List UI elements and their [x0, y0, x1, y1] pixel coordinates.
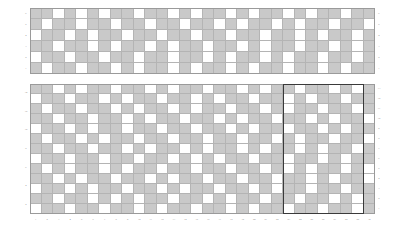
top-panel-grid-area — [30, 8, 375, 74]
grid-cell — [88, 63, 100, 74]
grid-cell — [99, 94, 111, 104]
axis-tick-label: 13 — [378, 88, 381, 91]
grid-cell — [111, 154, 123, 164]
axis-tick-label: 28 — [345, 219, 348, 222]
axis-tick-label: 11 — [378, 108, 381, 111]
grid-cell — [295, 52, 307, 63]
grid-cell — [53, 63, 65, 74]
grid-cell — [214, 194, 226, 204]
grid-cell — [214, 114, 226, 124]
grid-cell — [88, 134, 100, 144]
grid-cell — [226, 52, 238, 63]
grid-cell — [272, 174, 284, 184]
axis-tick-label: 7 — [378, 148, 379, 151]
axis-tick-label: 15 — [195, 219, 198, 222]
grid-cell — [260, 63, 272, 74]
axis-tick-label: 12 — [378, 98, 381, 101]
grid-cell — [76, 104, 88, 114]
grid-cell — [145, 144, 157, 154]
grid-cell — [42, 164, 54, 174]
grid-cell — [352, 144, 364, 154]
grid-cell — [214, 8, 226, 19]
axis-tick-label: 4 — [378, 34, 379, 37]
grid-cell — [42, 194, 54, 204]
grid-cell — [226, 94, 238, 104]
grid-cell — [364, 94, 376, 104]
grid-cell — [145, 30, 157, 41]
grid-cell — [272, 184, 284, 194]
grid-cell — [214, 164, 226, 174]
grid-cell — [111, 114, 123, 124]
axis-tick-label: 7 — [104, 219, 105, 222]
grid-cell — [237, 30, 249, 41]
grid-cell — [42, 30, 54, 41]
grid-cell — [260, 194, 272, 204]
grid-cell — [272, 84, 284, 94]
grid-cell — [249, 63, 261, 74]
grid-cell — [237, 124, 249, 134]
grid-cell — [88, 204, 100, 214]
grid-cell — [180, 124, 192, 134]
grid-cell — [157, 124, 169, 134]
grid-cell — [295, 19, 307, 30]
grid-cell — [30, 204, 42, 214]
grid-cell — [260, 164, 272, 174]
grid-cell — [65, 154, 77, 164]
grid-cell — [249, 174, 261, 184]
grid-cell — [352, 84, 364, 94]
grid-cell — [203, 52, 215, 63]
grid-cell — [295, 144, 307, 154]
grid-cell — [329, 174, 341, 184]
axis-tick-label: 6 — [25, 166, 26, 169]
grid-cell — [306, 154, 318, 164]
grid-cell — [249, 41, 261, 52]
grid-cell — [145, 184, 157, 194]
grid-cell — [329, 104, 341, 114]
grid-cell — [260, 84, 272, 94]
grid-cell — [42, 174, 54, 184]
grid-cell — [111, 144, 123, 154]
grid-cell — [306, 124, 318, 134]
grid-cell — [203, 144, 215, 154]
grid-cell — [341, 114, 353, 124]
grid-cell — [145, 104, 157, 114]
axis-tick-label: 6 — [93, 219, 94, 222]
grid-cell — [318, 94, 330, 104]
grid-cell — [180, 194, 192, 204]
grid-cell — [295, 30, 307, 41]
grid-cell — [99, 194, 111, 204]
grid-cell — [111, 94, 123, 104]
grid-cell — [65, 114, 77, 124]
axis-tick-label: 21 — [264, 219, 267, 222]
grid-cell — [76, 174, 88, 184]
grid-cell — [180, 164, 192, 174]
grid-cell — [226, 174, 238, 184]
grid-cell — [318, 41, 330, 52]
grid-cell — [226, 184, 238, 194]
grid-cell — [318, 30, 330, 41]
grid-cell — [111, 30, 123, 41]
axis-tick-label: 4 — [25, 185, 26, 188]
grid-cell — [76, 154, 88, 164]
grid-cell — [203, 19, 215, 30]
axis-tick-label: 4 — [378, 178, 379, 181]
grid-cell — [122, 134, 134, 144]
grid-cell — [306, 194, 318, 204]
grid-cell — [260, 19, 272, 30]
grid-cell — [111, 124, 123, 134]
grid-cell — [30, 41, 42, 52]
grid-cell — [364, 19, 376, 30]
axis-tick-label: 26 — [322, 219, 325, 222]
grid-cell — [122, 114, 134, 124]
grid-cell — [99, 104, 111, 114]
grid-cell — [180, 30, 192, 41]
grid-cell — [306, 144, 318, 154]
grid-cell — [88, 124, 100, 134]
grid-cell — [329, 41, 341, 52]
grid-cell — [42, 204, 54, 214]
grid-cell — [42, 154, 54, 164]
grid-cell — [191, 204, 203, 214]
grid-cell — [260, 94, 272, 104]
grid-cell — [237, 154, 249, 164]
grid-cell — [329, 19, 341, 30]
